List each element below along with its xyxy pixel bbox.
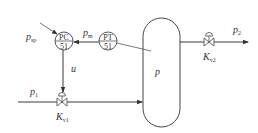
setpoint-label: psp [25, 31, 36, 43]
outlet-valve[interactable] [204, 33, 214, 46]
pressure-controller[interactable]: PC 51 [55, 32, 73, 51]
inlet-label: p1 [29, 86, 38, 98]
vessel-label: p [154, 66, 160, 77]
measurement-label: pm [82, 27, 93, 39]
outlet-label: p2 [232, 24, 241, 36]
svg-text:PT: PT [103, 33, 112, 42]
svg-text:PC: PC [59, 33, 69, 42]
setpoint-line [40, 23, 57, 34]
outlet-valve-label: Kv2 [202, 51, 216, 63]
pressure-control-diagram: p p1 Kv1 u psp PC 51 pm PT 51 p2 [0, 0, 258, 133]
pressure-transmitter[interactable]: PT 51 [99, 32, 117, 51]
inlet-valve-label: Kv1 [55, 111, 69, 123]
vessel [143, 18, 180, 127]
controller-output-label: u [71, 63, 76, 74]
svg-text:51: 51 [60, 42, 68, 51]
svg-text:51: 51 [104, 42, 112, 51]
inlet-valve[interactable] [57, 93, 67, 106]
